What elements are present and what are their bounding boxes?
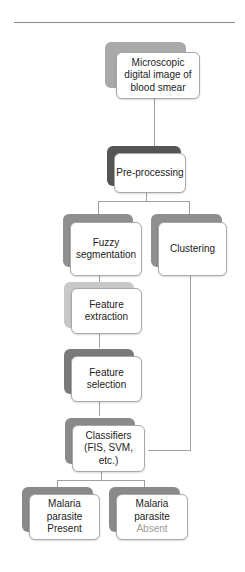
node-label: selection (87, 379, 126, 392)
node-label: Malaria (136, 498, 169, 511)
node-label: Pre-processing (116, 167, 183, 180)
node-label: Fuzzy (93, 237, 120, 250)
node-label: digital image of (124, 69, 191, 82)
node-box: Feature extraction (71, 288, 142, 334)
node-label: Present (47, 523, 81, 536)
node-box: Classifiers (FIS, SVM, etc.) (72, 425, 145, 472)
connector-branch-horizontal (98, 201, 190, 202)
node-box: Feature selection (71, 356, 142, 402)
node-label: (FIS, SVM, etc.) (73, 442, 144, 467)
connector-to-fuzzy (98, 201, 99, 214)
connector-selection-classifiers (99, 402, 100, 416)
node-box: Malaria parasite Absent (116, 494, 188, 540)
node-box: Fuzzy segmentation (70, 222, 142, 276)
connector-input-preprocessing (154, 99, 155, 148)
node-label: Absent (136, 523, 167, 536)
node-box: Microscopic digital image of blood smear (116, 52, 200, 99)
top-divider (14, 22, 235, 23)
node-label: Feature (89, 367, 123, 380)
connector-clustering-down (190, 276, 191, 450)
node-label: parasite (47, 511, 83, 524)
node-label: parasite (134, 511, 170, 524)
node-box: Clustering (158, 222, 227, 276)
node-label: segmentation (76, 249, 136, 262)
node-label: Classifiers (85, 430, 131, 443)
node-label: Microscopic (132, 57, 185, 70)
connector-outputs-horizontal (57, 480, 145, 481)
node-label: Clustering (170, 243, 215, 256)
node-label: Feature (89, 299, 123, 312)
connector-classifiers-down (101, 472, 102, 480)
connector-extraction-selection (99, 334, 100, 348)
connector-preprocessing-down (146, 193, 147, 201)
connector-to-clustering (189, 201, 190, 214)
node-box: Pre-processing (114, 153, 186, 193)
connector-clustering-classifiers (148, 450, 191, 451)
node-label: Malaria (48, 498, 81, 511)
node-label: blood smear (130, 82, 185, 95)
node-label: extraction (85, 311, 128, 324)
node-box: Malaria parasite Present (29, 494, 100, 540)
